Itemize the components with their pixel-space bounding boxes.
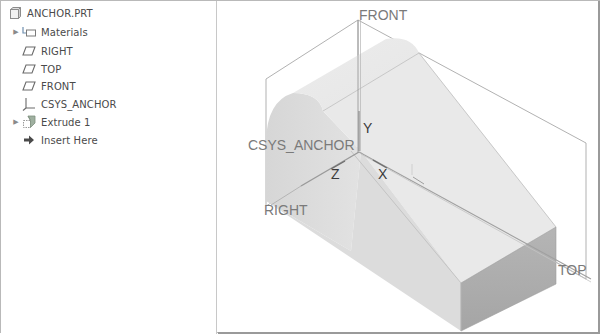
tree-item-top[interactable]: TOP	[21, 60, 61, 78]
materials-icon	[21, 25, 37, 39]
expand-arrow-icon[interactable]: ▶	[11, 118, 21, 126]
application-window: ANCHOR.PRT ▶ Materials RIGHT	[0, 0, 600, 333]
tree-item-extrude-1[interactable]: ▶ Extrude 1	[11, 113, 91, 131]
insert-arrow-icon	[21, 133, 37, 147]
datum-label-right[interactable]: RIGHT	[264, 203, 308, 217]
axis-label-y: Y	[363, 121, 372, 135]
extrude-icon	[21, 115, 37, 129]
tree-item-label: Insert Here	[41, 135, 98, 146]
axis-label-x: X	[378, 167, 387, 181]
model-tree-panel: ANCHOR.PRT ▶ Materials RIGHT	[1, 1, 217, 334]
tree-item-right[interactable]: RIGHT	[21, 42, 73, 60]
datum-plane-icon	[21, 44, 37, 58]
expand-arrow-icon[interactable]: ▶	[11, 28, 21, 36]
part-icon	[7, 6, 23, 20]
datum-plane-icon	[21, 62, 37, 76]
tree-item-label: TOP	[41, 64, 61, 75]
csys-label[interactable]: CSYS_ANCHOR	[248, 138, 355, 152]
tree-item-materials[interactable]: ▶ Materials	[11, 23, 88, 41]
datum-plane-icon	[21, 79, 37, 93]
tree-item-csys-anchor[interactable]: CSYS_ANCHOR	[21, 95, 117, 113]
model-graphics	[218, 1, 600, 334]
datum-label-top[interactable]: TOP	[558, 263, 587, 277]
tree-item-insert-here[interactable]: Insert Here	[21, 131, 98, 149]
tree-item-label: FRONT	[41, 81, 76, 92]
axis-label-z: Z	[331, 167, 340, 181]
tree-item-label: CSYS_ANCHOR	[41, 99, 117, 110]
tree-item-front[interactable]: FRONT	[21, 77, 76, 95]
datum-label-front[interactable]: FRONT	[359, 8, 407, 22]
tree-item-label: ANCHOR.PRT	[27, 8, 93, 19]
coordinate-system-icon	[21, 97, 37, 111]
tree-item-anchor-prt[interactable]: ANCHOR.PRT	[7, 4, 93, 22]
tree-item-label: RIGHT	[41, 46, 73, 57]
graphics-viewport[interactable]: FRONT CSYS_ANCHOR RIGHT TOP Y Z X	[218, 1, 600, 334]
tree-item-label: Materials	[41, 27, 88, 38]
tree-item-label: Extrude 1	[41, 117, 91, 128]
